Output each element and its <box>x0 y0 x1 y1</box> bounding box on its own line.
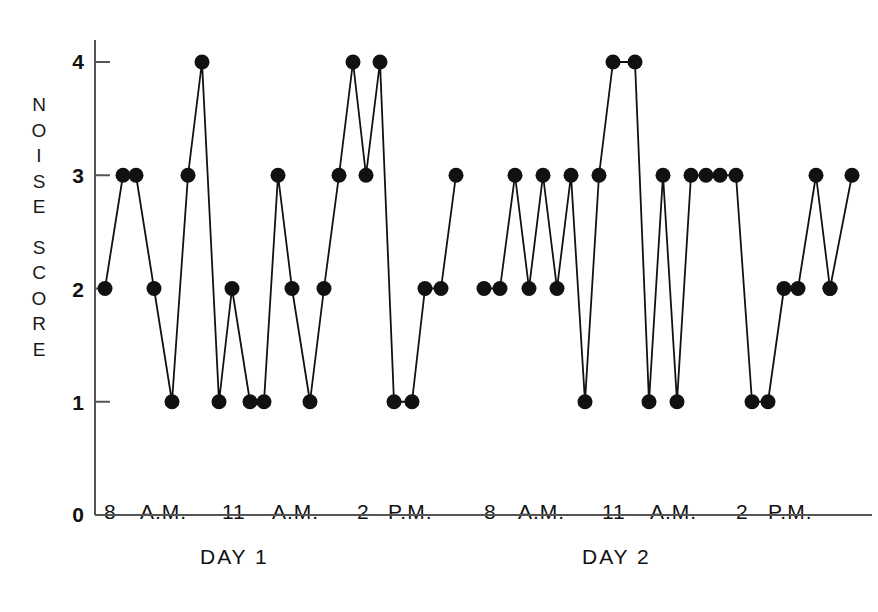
data-point-marker <box>729 168 744 183</box>
data-series-layer <box>98 55 860 410</box>
data-point-marker <box>761 394 776 409</box>
data-point-marker <box>493 281 508 296</box>
data-point-marker <box>165 394 180 409</box>
series-line <box>484 62 830 402</box>
data-point-marker <box>129 168 144 183</box>
data-point-marker <box>823 281 838 296</box>
data-point-marker <box>477 281 492 296</box>
noise-score-chart: N O I S E S C O R E 4 3 2 1 0 8 A.M. 11 … <box>0 0 878 612</box>
data-point-marker <box>359 168 374 183</box>
data-point-marker <box>845 168 860 183</box>
data-point-marker <box>745 394 760 409</box>
data-point-marker <box>550 281 565 296</box>
series-line <box>105 62 456 402</box>
data-point-marker <box>147 281 162 296</box>
data-point-marker <box>791 281 806 296</box>
data-point-marker <box>606 55 621 70</box>
data-point-marker <box>592 168 607 183</box>
data-series <box>98 55 464 410</box>
data-point-marker <box>713 168 728 183</box>
data-point-marker <box>434 281 449 296</box>
data-point-marker <box>317 281 332 296</box>
data-point-marker <box>257 394 272 409</box>
data-point-marker <box>116 168 131 183</box>
data-point-marker <box>332 168 347 183</box>
data-point-marker <box>243 394 258 409</box>
data-series <box>477 55 838 410</box>
data-point-marker <box>225 281 240 296</box>
data-point-marker <box>809 168 824 183</box>
data-point-marker <box>303 394 318 409</box>
data-point-marker <box>181 168 196 183</box>
data-point-marker <box>628 55 643 70</box>
data-point-marker <box>578 394 593 409</box>
data-point-marker <box>777 281 792 296</box>
data-point-marker <box>670 394 685 409</box>
data-point-marker <box>212 394 227 409</box>
data-point-marker <box>346 55 361 70</box>
data-point-marker <box>405 394 420 409</box>
data-point-marker <box>387 394 402 409</box>
plot-area <box>0 0 878 612</box>
data-point-marker <box>449 168 464 183</box>
data-point-marker <box>195 55 210 70</box>
data-point-marker <box>98 281 113 296</box>
data-point-marker <box>285 281 300 296</box>
data-point-marker <box>564 168 579 183</box>
data-point-marker <box>271 168 286 183</box>
data-point-marker <box>656 168 671 183</box>
data-point-marker <box>373 55 388 70</box>
data-point-marker <box>642 394 657 409</box>
data-point-marker <box>536 168 551 183</box>
data-point-marker <box>418 281 433 296</box>
data-point-marker <box>522 281 537 296</box>
data-point-marker <box>684 168 699 183</box>
series-line <box>830 175 852 288</box>
data-point-marker <box>508 168 523 183</box>
data-point-marker <box>699 168 714 183</box>
